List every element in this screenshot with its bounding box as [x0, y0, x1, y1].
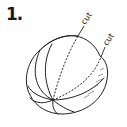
segment-line — [40, 36, 78, 50]
segmented-sphere-illustration: cut cut — [0, 0, 127, 127]
cut-line-2 — [53, 57, 101, 100]
segment-line — [53, 100, 74, 112]
cut-label-1: cut — [79, 11, 94, 26]
segment-line — [45, 44, 53, 100]
cut-label-2: cut — [101, 32, 116, 47]
cut-line-1 — [53, 36, 78, 100]
segment-line — [35, 50, 53, 100]
